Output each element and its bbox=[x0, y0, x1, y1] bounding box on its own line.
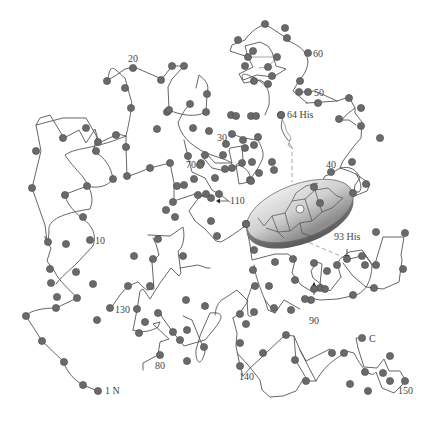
label-res140: 140 bbox=[239, 371, 254, 382]
label-res150: 150 bbox=[398, 385, 413, 396]
label-res20: 20 bbox=[128, 53, 138, 64]
proximal-his-dash bbox=[303, 240, 345, 258]
label-c-terminus: C bbox=[369, 333, 376, 344]
label-res90: 90 bbox=[309, 315, 319, 326]
myoglobin-diagram: 1 N C 10 20 30 40 50 60 64 His 70 80 90 … bbox=[0, 0, 430, 421]
label-res80: 80 bbox=[155, 360, 165, 371]
label-res10: 10 bbox=[95, 235, 105, 246]
label-his93: 93 His bbox=[334, 231, 361, 242]
label-res60: 60 bbox=[313, 48, 323, 59]
label-n-terminus: 1 N bbox=[105, 385, 120, 396]
label-res30: 30 bbox=[217, 132, 227, 143]
label-his64: 64 His bbox=[287, 109, 314, 120]
label-res50: 50 bbox=[314, 87, 324, 98]
label-res70: 70 bbox=[186, 159, 196, 170]
label-res130: 130 bbox=[115, 304, 130, 315]
iron-atom-icon bbox=[296, 205, 304, 213]
label-res40: 40 bbox=[326, 159, 336, 170]
label-res110: 110 bbox=[230, 195, 245, 206]
